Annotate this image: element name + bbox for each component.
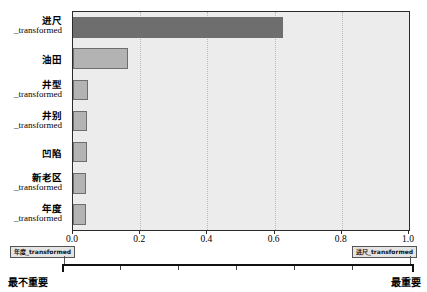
scale-right-feature-box: 进尺_transformed	[352, 246, 417, 258]
gridline	[207, 12, 208, 230]
y-axis-label-suffix: _transformed	[14, 90, 62, 99]
scale-tick	[120, 266, 121, 270]
bar	[73, 111, 87, 132]
x-axis-tick-label: 0.0	[66, 234, 78, 244]
bar	[73, 142, 87, 163]
feature-importance-chart: 进尺 _transformed 油田 井型 _transformed 井别 _t…	[0, 0, 427, 292]
x-axis-tick-label: 0.8	[335, 234, 347, 244]
y-axis-labels: 进尺 _transformed 油田 井型 _transformed 井别 _t…	[0, 11, 68, 229]
y-axis-label-suffix: _transformed	[14, 121, 62, 130]
y-axis-label-suffix: _transformed	[14, 214, 62, 223]
least-important-label: 最不重要	[8, 274, 48, 289]
scale-left-cap	[62, 264, 64, 272]
bar	[73, 204, 86, 225]
scale-tick	[294, 266, 295, 270]
x-axis-tick-label: 0.2	[133, 234, 145, 244]
y-axis-label: 年度 _transformed	[14, 204, 62, 223]
plot-area	[72, 11, 410, 231]
scale-left-feature-label: 年度_transformed	[14, 248, 71, 255]
x-axis-tick-label: 0.6	[268, 234, 280, 244]
importance-scale: 年度_transformed 进尺_transformed 最不重要 最重要	[0, 246, 427, 292]
bar	[73, 80, 88, 101]
y-axis-label-suffix: _transformed	[14, 183, 62, 192]
most-important-label: 最重要	[391, 274, 421, 289]
scale-right-feature-label: 进尺_transformed	[356, 248, 413, 255]
scale-line	[62, 264, 414, 266]
bar	[73, 48, 128, 69]
scale-tick	[178, 266, 179, 270]
y-axis-label-cn: 油田	[42, 55, 62, 65]
bar	[73, 173, 86, 194]
bar	[73, 17, 283, 38]
x-axis-tick-label: 0.4	[200, 234, 212, 244]
gridline	[140, 12, 141, 230]
scale-tick	[236, 266, 237, 270]
scale-left-leader	[64, 256, 65, 264]
x-axis: 0.00.20.40.60.81.0	[0, 230, 427, 246]
y-axis-label: 进尺 _transformed	[14, 16, 62, 35]
scale-left-feature-box: 年度_transformed	[10, 246, 75, 258]
y-axis-label-suffix: _transformed	[14, 26, 62, 35]
y-axis-label: 凹陷	[42, 149, 62, 159]
scale-right-leader	[410, 256, 411, 264]
y-axis-label: 油田	[42, 55, 62, 65]
y-axis-label-cn: 凹陷	[42, 149, 62, 159]
y-axis-label: 新老区 _transformed	[14, 173, 62, 192]
y-axis-label: 井型 _transformed	[14, 80, 62, 99]
scale-right-cap	[412, 264, 414, 272]
gridline	[275, 12, 276, 230]
y-axis-label: 井别 _transformed	[14, 111, 62, 130]
x-axis-tick-label: 1.0	[402, 234, 414, 244]
scale-tick	[352, 266, 353, 270]
gridline	[342, 12, 343, 230]
